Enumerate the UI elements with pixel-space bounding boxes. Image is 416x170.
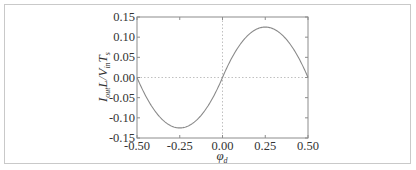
- line-chart: 0.150.100.050.00-0.05-0.10-0.15-0.50-0.2…: [0, 0, 416, 170]
- x-tick-label: 0.25: [254, 139, 276, 153]
- x-tick-label: -0.50: [124, 139, 150, 153]
- y-axis-label: IoutL/VinTs: [95, 52, 112, 103]
- y-tick-label: 0.05: [113, 50, 135, 64]
- y-tick-label: -0.10: [109, 111, 135, 125]
- x-tick-label: 0.50: [297, 139, 319, 153]
- x-tick-label: -0.25: [167, 139, 193, 153]
- y-tick-label: 0.15: [113, 10, 135, 24]
- y-tick-label: -0.05: [109, 91, 135, 105]
- y-tick-label: 0.10: [113, 30, 135, 44]
- y-tick-label: 0.00: [113, 71, 135, 85]
